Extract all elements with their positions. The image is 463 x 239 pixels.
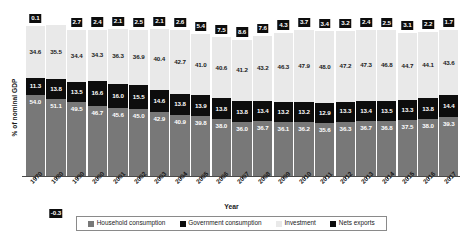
bar-column[interactable]: 2.447.313.436.7 xyxy=(356,4,375,176)
segment-household-consumption[interactable]: 36.0 xyxy=(232,122,251,176)
bar-column[interactable]: 7.643.213.436.7 xyxy=(253,4,272,176)
net-exports-value-label: 2.4 xyxy=(360,18,372,27)
x-axis-tick: 2002 xyxy=(128,177,149,199)
segment-investment[interactable]: 36.9 xyxy=(129,30,148,85)
bar-column[interactable]: 3.448.012.935.6 xyxy=(315,4,334,176)
segment-government-consumption[interactable]: 13.4 xyxy=(356,101,375,121)
bar-column[interactable]: 2.136.316.045.6 xyxy=(108,4,127,176)
bar-column[interactable]: 2.734.413.549.5 xyxy=(67,4,86,176)
segment-household-consumption[interactable]: 51.1 xyxy=(46,99,65,176)
segment-household-consumption[interactable]: 42.9 xyxy=(150,112,169,176)
segment-investment[interactable]: 44.1 xyxy=(418,32,437,98)
segment-government-consumption[interactable]: 13.8 xyxy=(418,98,437,119)
legend-item[interactable]: Nets exports xyxy=(330,220,374,226)
segment-investment[interactable]: 36.3 xyxy=(108,29,127,83)
segment-government-consumption[interactable]: 13.8 xyxy=(212,98,231,119)
household-consumption-value-label: 35.6 xyxy=(319,127,331,133)
bar-column[interactable]: 2.244.113.838.0 xyxy=(418,4,437,176)
segment-government-consumption[interactable]: 13.5 xyxy=(377,101,396,121)
segment-household-consumption[interactable]: 45.6 xyxy=(108,108,127,176)
segment-government-consumption[interactable]: 15.5 xyxy=(129,85,148,108)
segment-government-consumption[interactable]: 13.2 xyxy=(294,102,313,122)
segment-investment[interactable]: 43.6 xyxy=(439,30,458,95)
segment-investment[interactable]: 40.6 xyxy=(212,37,231,98)
segment-household-consumption[interactable]: 36.1 xyxy=(274,122,293,176)
segment-government-consumption[interactable]: 13.8 xyxy=(46,79,65,100)
segment-household-consumption[interactable]: 40.9 xyxy=(170,115,189,176)
segment-investment[interactable]: 34.4 xyxy=(67,30,86,82)
segment-household-consumption[interactable]: 46.7 xyxy=(88,106,107,176)
segment-household-consumption[interactable]: 36.7 xyxy=(356,121,375,176)
segment-household-consumption[interactable]: 49.5 xyxy=(67,102,86,176)
segment-investment[interactable]: 42.7 xyxy=(170,30,189,94)
investment-value-label: 48.0 xyxy=(319,64,331,70)
segment-investment[interactable]: 34.3 xyxy=(88,30,107,81)
bar-column[interactable]: 0.134.611.354.0 xyxy=(26,4,45,176)
legend-item[interactable]: Investment xyxy=(276,220,316,226)
segment-investment[interactable]: 44.7 xyxy=(398,33,417,100)
bar-column[interactable]: 2.434.316.646.7 xyxy=(88,4,107,176)
segment-government-consumption[interactable]: 13.8 xyxy=(170,94,189,115)
household-consumption-value-label: 36.1 xyxy=(278,126,290,132)
segment-household-consumption[interactable]: 36.8 xyxy=(377,121,396,176)
bar-column[interactable]: 3.247.213.336.3 xyxy=(336,4,355,176)
bar-column[interactable]: 2.546.813.536.8 xyxy=(377,4,396,176)
segment-government-consumption[interactable]: 14.4 xyxy=(439,95,458,117)
bar-column[interactable]: -0.335.513.851.1 xyxy=(46,4,65,176)
segment-government-consumption[interactable]: 13.8 xyxy=(232,101,251,122)
bar-column[interactable]: 3.144.713.337.5 xyxy=(398,4,417,176)
segment-government-consumption[interactable]: 13.4 xyxy=(253,101,272,121)
segment-household-consumption[interactable]: 36.2 xyxy=(294,122,313,176)
segment-household-consumption[interactable]: 39.8 xyxy=(191,116,210,176)
bar-column[interactable]: 7.540.613.838.0 xyxy=(212,4,231,176)
segment-household-consumption[interactable]: 38.0 xyxy=(212,119,231,176)
bar-column[interactable]: 2.140.414.642.9 xyxy=(150,4,169,176)
bar-column[interactable]: 2.642.713.840.9 xyxy=(170,4,189,176)
segment-government-consumption[interactable]: 13.3 xyxy=(398,100,417,120)
bar-column[interactable]: 4.346.313.236.1 xyxy=(274,4,293,176)
segment-investment[interactable]: 35.5 xyxy=(46,25,65,78)
segment-investment[interactable]: 48.0 xyxy=(315,31,334,103)
segment-investment[interactable]: 46.3 xyxy=(274,33,293,102)
segment-government-consumption[interactable]: 11.3 xyxy=(26,78,45,95)
investment-value-label: 47.2 xyxy=(340,63,352,69)
legend-item[interactable]: Household consumption xyxy=(88,220,165,226)
segment-household-consumption[interactable]: 36.7 xyxy=(253,121,272,176)
bar-column[interactable]: 8.641.213.836.0 xyxy=(232,4,251,176)
segment-government-consumption[interactable]: 13.2 xyxy=(274,102,293,122)
segment-investment[interactable]: 40.4 xyxy=(150,29,169,90)
government-consumption-value-label: 13.2 xyxy=(298,109,310,115)
x-axis-tick: 2005 xyxy=(190,177,211,199)
government-consumption-value-label: 13.8 xyxy=(422,106,434,112)
segment-household-consumption[interactable]: 39.3 xyxy=(439,117,458,176)
segment-government-consumption[interactable]: 16.0 xyxy=(108,84,127,108)
legend-item[interactable]: Government consumption xyxy=(180,220,262,226)
investment-value-label: 44.7 xyxy=(402,63,414,69)
segment-household-consumption[interactable]: 37.5 xyxy=(398,120,417,176)
segment-investment[interactable]: 43.2 xyxy=(253,36,272,101)
segment-government-consumption[interactable]: 13.3 xyxy=(336,102,355,122)
segment-household-consumption[interactable]: 36.3 xyxy=(336,122,355,176)
x-axis-tick: 2004 xyxy=(170,177,191,199)
bar-column[interactable]: 5.441.013.939.8 xyxy=(191,4,210,176)
segment-investment[interactable]: 41.2 xyxy=(232,40,251,102)
segment-government-consumption[interactable]: 16.6 xyxy=(88,81,107,106)
segment-investment[interactable]: 46.8 xyxy=(377,30,396,100)
bar-column[interactable]: 2.536.915.545.0 xyxy=(129,4,148,176)
investment-value-label: 36.3 xyxy=(112,53,124,59)
segment-household-consumption[interactable]: 54.0 xyxy=(26,95,45,176)
bar-column[interactable]: 3.747.913.236.2 xyxy=(294,4,313,176)
segment-government-consumption[interactable]: 13.5 xyxy=(67,82,86,102)
segment-investment[interactable]: 41.0 xyxy=(191,34,210,96)
segment-household-consumption[interactable]: 38.0 xyxy=(418,119,437,176)
segment-household-consumption[interactable]: 35.6 xyxy=(315,123,334,176)
segment-government-consumption[interactable]: 14.6 xyxy=(150,90,169,112)
segment-investment[interactable]: 34.6 xyxy=(26,26,45,78)
segment-investment[interactable]: 47.9 xyxy=(294,30,313,102)
segment-investment[interactable]: 47.3 xyxy=(356,30,375,101)
segment-government-consumption[interactable]: 12.9 xyxy=(315,103,334,122)
segment-household-consumption[interactable]: 45.0 xyxy=(129,109,148,177)
bar-column[interactable]: 1.743.614.439.3 xyxy=(439,4,458,176)
segment-government-consumption[interactable]: 13.9 xyxy=(191,95,210,116)
segment-investment[interactable]: 47.2 xyxy=(336,31,355,102)
